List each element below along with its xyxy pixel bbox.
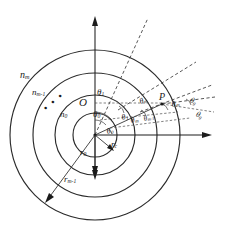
radius-arrow-rm1-icon (45, 193, 54, 203)
label-theta-0-inner: θ0 (93, 110, 100, 120)
radius-line-rm1 (48, 135, 95, 199)
label-r-0: r0 (80, 148, 86, 158)
figure-canvas: nm nm-1 • • • n0 O P θ1 θ0 θ0 θ1 θm θm-1… (0, 0, 228, 229)
label-O: O (79, 97, 87, 108)
vertical-axis-up-arrow-icon (92, 16, 98, 26)
label-n-m-minus-1: nm-1 (32, 88, 45, 98)
dashed-ref-line-mid (100, 112, 178, 120)
label-r-c: rc (111, 140, 117, 150)
label-r-m-minus-1: rm-1 (64, 175, 76, 185)
label-theta-1-top: θ1 (97, 88, 104, 98)
point-P-marker (160, 102, 163, 105)
label-n-m: nm (20, 70, 29, 81)
label-P: P (159, 92, 165, 102)
label-n-0: n0 (60, 110, 67, 120)
diagram-svg (0, 0, 228, 229)
dashed-ref-line-P-right (162, 104, 214, 112)
horizontal-axis-right-arrow-icon (202, 132, 212, 138)
